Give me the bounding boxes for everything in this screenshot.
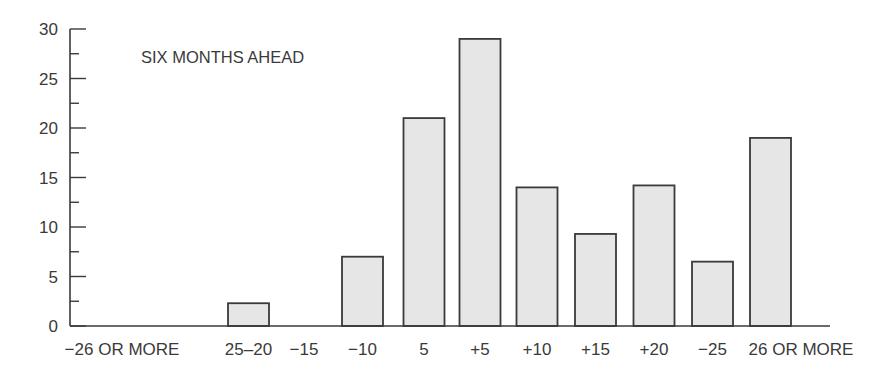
bar: [750, 138, 791, 326]
bar-chart: 051015202530 −26 OR MORE25–20−15−105+5+1…: [0, 0, 894, 382]
y-axis: 051015202530: [39, 20, 86, 336]
x-category-label: 5: [419, 340, 428, 359]
bars: [228, 39, 791, 326]
x-category-label: +10: [523, 340, 552, 359]
x-category-label: 25–20: [225, 340, 272, 359]
bar: [692, 262, 733, 326]
x-category-label: −15: [290, 340, 319, 359]
x-category-label: +5: [470, 340, 489, 359]
x-category-label: −25: [698, 340, 727, 359]
y-tick-label: 25: [39, 70, 58, 89]
bar: [634, 185, 675, 326]
x-category-label: −26 OR MORE: [65, 340, 180, 359]
x-category-label: +20: [640, 340, 669, 359]
bar: [228, 303, 269, 326]
bar: [342, 257, 383, 326]
x-category-label: 26 OR MORE: [749, 340, 854, 359]
y-tick-label: 10: [39, 218, 58, 237]
y-tick-label: 0: [49, 317, 58, 336]
x-category-label: +15: [581, 340, 610, 359]
y-tick-label: 15: [39, 169, 58, 188]
bar: [460, 39, 501, 326]
bar: [517, 187, 558, 326]
bar: [404, 118, 445, 326]
y-tick-label: 5: [49, 268, 58, 287]
x-category-label: −10: [348, 340, 377, 359]
y-tick-label: 20: [39, 119, 58, 138]
chart-title: SIX MONTHS AHEAD: [141, 48, 304, 66]
y-tick-label: 30: [39, 20, 58, 39]
x-axis: −26 OR MORE25–20−15−105+5+10+15+20−2526 …: [65, 326, 854, 359]
bar: [575, 234, 616, 326]
